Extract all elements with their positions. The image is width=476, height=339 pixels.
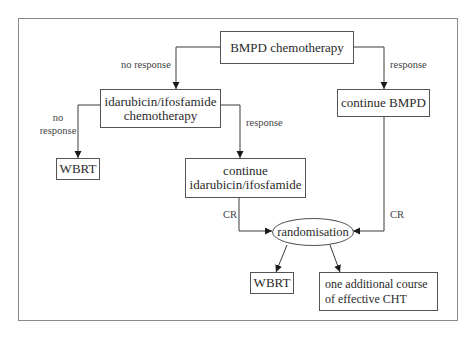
edge-idarubicin-to-continue bbox=[220, 105, 240, 158]
node-bmpd-chemotherapy-text: BMPD chemotherapy bbox=[230, 41, 344, 55]
node-continue-bmpd: continue BMPD bbox=[337, 89, 430, 117]
label-response-idarubicin: response bbox=[246, 117, 283, 129]
node-additional-course-line1: one additional course bbox=[325, 277, 428, 292]
label-response: response bbox=[38, 125, 78, 137]
node-continue-idarubicin-line1: continue bbox=[223, 164, 268, 178]
edge-randomisation-to-wbrt bbox=[276, 245, 287, 272]
edge-bmpd-to-continue-bmpd bbox=[353, 47, 384, 89]
node-randomisation-text: randomisation bbox=[277, 225, 349, 239]
node-randomisation: randomisation bbox=[272, 218, 354, 246]
node-bmpd-chemotherapy: BMPD chemotherapy bbox=[220, 31, 354, 64]
node-additional-course-line2: of effective CHT bbox=[325, 292, 407, 307]
edge-bmpd-to-idarubicin bbox=[176, 47, 220, 89]
edge-continue-idarubicin-to-randomisation bbox=[239, 197, 272, 231]
node-idarubicin-line2: chemotherapy bbox=[124, 109, 198, 123]
node-idarubicin-line1: idarubicin/ifosfamide bbox=[105, 95, 217, 109]
edge-continue-bmpd-to-randomisation bbox=[353, 116, 384, 231]
edge-idarubicin-to-wbrt bbox=[78, 105, 100, 158]
node-wbrt-bottom: WBRT bbox=[250, 272, 294, 294]
node-wbrt-left-text: WBRT bbox=[60, 162, 97, 176]
label-no: no bbox=[38, 112, 78, 124]
edge-randomisation-to-additional bbox=[330, 245, 340, 272]
node-continue-idarubicin: continue idarubicin/ifosfamide bbox=[185, 158, 306, 198]
label-response-bmpd: response bbox=[390, 59, 427, 71]
label-cr-right: CR bbox=[390, 209, 404, 221]
node-continue-bmpd-text: continue BMPD bbox=[341, 96, 426, 110]
node-continue-idarubicin-line2: idarubicin/ifosfamide bbox=[190, 178, 302, 192]
label-no-response-bmpd: no response bbox=[121, 59, 171, 71]
node-wbrt-bottom-text: WBRT bbox=[254, 276, 291, 290]
node-wbrt-left: WBRT bbox=[56, 158, 100, 180]
node-idarubicin-chemotherapy: idarubicin/ifosfamide chemotherapy bbox=[100, 89, 221, 128]
node-additional-course: one additional course of effective CHT bbox=[319, 272, 438, 311]
label-no-response-idarubicin: no response bbox=[38, 112, 78, 137]
label-cr-left: CR bbox=[223, 209, 237, 221]
